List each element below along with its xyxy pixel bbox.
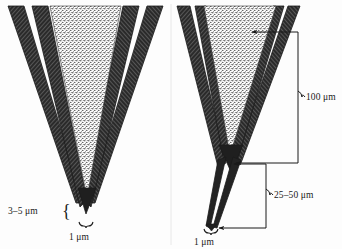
wall-thickness-brace: { xyxy=(62,201,71,221)
label-wall-thickness: 3–5 μm xyxy=(8,206,38,216)
figure-root: { 3–5 μm 1 μm xyxy=(0,0,342,249)
label-tip-diameter: 1 μm xyxy=(69,232,90,242)
label-tip-taper-length: 25–50 μm xyxy=(274,190,314,200)
label-right-tip-diameter: 1 μm xyxy=(194,237,215,247)
pipette-diagram: { 3–5 μm 1 μm xyxy=(0,0,342,249)
label-shank-length: 100 μm xyxy=(306,92,336,102)
